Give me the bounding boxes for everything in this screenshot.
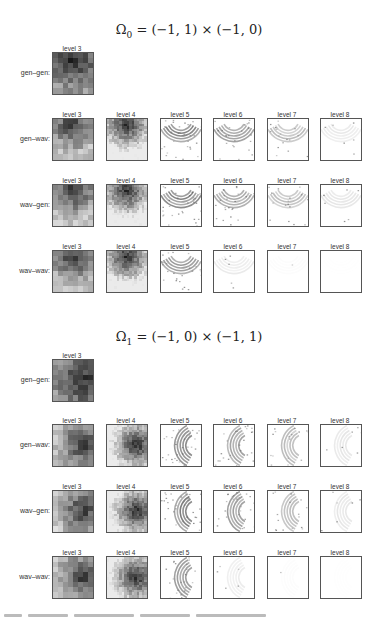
level-label: level 6 [212,111,254,118]
clipped-caption [0,611,378,617]
section-title-omega1: Ω1 = (−1, 0) × (−1, 1) [0,329,378,347]
level-label: level 7 [266,417,308,424]
row-label: gen–gen: [0,69,50,76]
level-label: level 3 [51,243,93,250]
heatmap-panel [160,424,202,467]
heatmap-panel [160,184,202,227]
level-label: level 5 [159,483,201,490]
heatmap-panel [267,556,309,599]
heatmap-panel [52,184,94,227]
heatmap-panel [320,424,362,467]
level-label: level 6 [212,177,254,184]
heatmap-panel [52,359,94,402]
row-label: wav–gen: [0,507,50,514]
heatmap-panel [213,556,255,599]
heatmap-panel [106,184,148,227]
level-label: level 4 [105,111,147,118]
row-label: gen–wav: [0,135,50,142]
heatmap-panel [213,490,255,533]
level-label: level 8 [319,483,361,490]
heatmap-panel [267,250,309,293]
level-label: level 7 [266,483,308,490]
heatmap-panel [320,490,362,533]
row-label: wav–wav: [0,267,50,274]
level-label: level 8 [319,549,361,556]
level-label: level 4 [105,549,147,556]
section-title-omega0: Ω0 = (−1, 1) × (−1, 0) [0,22,378,40]
heatmap-panel [160,490,202,533]
heatmap-panel [160,556,202,599]
heatmap-panel [320,118,362,161]
heatmap-panel [52,250,94,293]
heatmap-panel [52,52,94,95]
level-label: level 8 [319,177,361,184]
heatmap-panel [106,556,148,599]
domain-expression: = (−1, 1) × (−1, 0) [132,22,262,37]
heatmap-panel [160,118,202,161]
row-label: wav–wav: [0,573,50,580]
level-label: level 8 [319,243,361,250]
row-label: gen–wav: [0,441,50,448]
level-label: level 8 [319,111,361,118]
level-label: level 3 [51,352,93,359]
heatmap-panel [106,490,148,533]
level-label: level 3 [51,483,93,490]
heatmap-panel [267,424,309,467]
level-label: level 5 [159,111,201,118]
row-label: wav–gen: [0,201,50,208]
heatmap-panel [213,424,255,467]
level-label: level 5 [159,243,201,250]
heatmap-panel [267,118,309,161]
heatmap-panel [106,424,148,467]
level-label: level 5 [159,549,201,556]
level-label: level 6 [212,483,254,490]
level-label: level 6 [212,243,254,250]
level-label: level 3 [51,417,93,424]
level-label: level 8 [319,417,361,424]
heatmap-panel [213,250,255,293]
level-label: level 6 [212,549,254,556]
heatmap-panel [267,184,309,227]
level-label: level 5 [159,177,201,184]
heatmap-panel [106,250,148,293]
heatmap-panel [160,250,202,293]
level-label: level 7 [266,549,308,556]
heatmap-panel [52,424,94,467]
heatmap-panel [213,184,255,227]
heatmap-panel [320,250,362,293]
level-label: level 3 [51,549,93,556]
level-label: level 7 [266,243,308,250]
omega-symbol: Ω [116,329,127,344]
heatmap-panel [320,184,362,227]
level-label: level 4 [105,483,147,490]
level-label: level 4 [105,243,147,250]
heatmap-panel [213,118,255,161]
heatmap-panel [52,556,94,599]
level-label: level 4 [105,177,147,184]
heatmap-panel [320,556,362,599]
level-label: level 7 [266,177,308,184]
level-label: level 5 [159,417,201,424]
row-label: gen–gen: [0,376,50,383]
heatmap-panel [52,490,94,533]
omega-symbol: Ω [116,22,127,37]
level-label: level 3 [51,111,93,118]
level-label: level 3 [51,177,93,184]
heatmap-panel [106,118,148,161]
heatmap-panel [267,490,309,533]
heatmap-panel [52,118,94,161]
level-label: level 3 [51,45,93,52]
level-label: level 4 [105,417,147,424]
level-label: level 7 [266,111,308,118]
domain-expression: = (−1, 0) × (−1, 1) [132,329,262,344]
level-label: level 6 [212,417,254,424]
